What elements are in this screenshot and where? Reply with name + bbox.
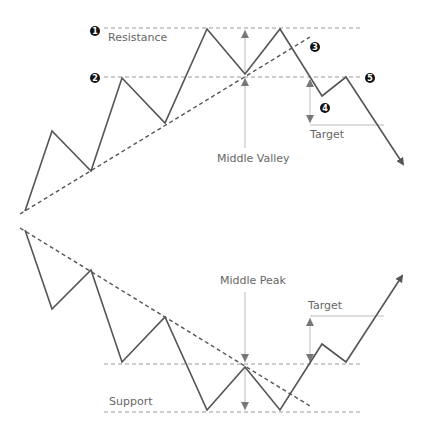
svg-text:4: 4 xyxy=(322,104,328,113)
marker-3: 3 xyxy=(310,42,320,52)
svg-text:1: 1 xyxy=(92,27,98,36)
svg-text:2: 2 xyxy=(92,74,98,83)
svg-text:5: 5 xyxy=(367,74,373,83)
marker-1: 1 xyxy=(90,26,100,36)
top-pattern: Resistance Middle Valley Target 1 2 3 4 … xyxy=(20,26,403,214)
marker-5: 5 xyxy=(365,73,375,83)
arrow-down-icon xyxy=(306,115,314,123)
chart-pattern-diagram: Resistance Middle Valley Target 1 2 3 4 … xyxy=(0,0,428,440)
arrow-down-icon xyxy=(241,402,249,410)
resistance-label: Resistance xyxy=(108,31,168,44)
svg-text:3: 3 xyxy=(312,43,318,52)
marker-4: 4 xyxy=(320,103,330,113)
top-trendline xyxy=(20,37,310,214)
middle-peak-label: Middle Peak xyxy=(220,274,287,287)
bottom-target-label: Target xyxy=(307,299,343,312)
bottom-pattern: Middle Peak Target Support xyxy=(20,228,402,412)
marker-2: 2 xyxy=(90,73,100,83)
top-target-label: Target xyxy=(309,128,345,141)
arrow-up-icon xyxy=(306,318,314,326)
arrow-up-icon xyxy=(241,30,249,38)
support-label: Support xyxy=(109,395,153,408)
arrow-down-icon xyxy=(241,354,249,362)
top-price-line xyxy=(25,29,403,211)
bottom-price-line xyxy=(25,230,402,410)
middle-valley-label: Middle Valley xyxy=(217,152,290,165)
